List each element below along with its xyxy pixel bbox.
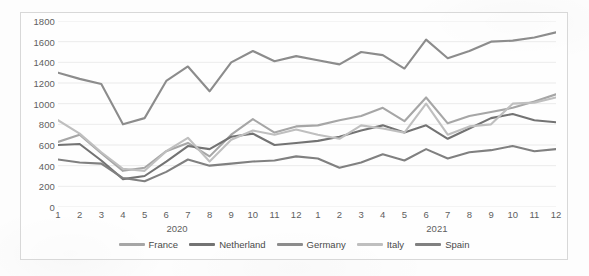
x-axis-tick-label: 8 xyxy=(207,209,212,220)
series-line-germany xyxy=(58,32,556,124)
y-axis-tick-label: 400 xyxy=(39,160,55,171)
page-background: 180016001400120010008006004002000 123456… xyxy=(0,0,589,276)
legend-swatch-spain xyxy=(415,243,441,246)
series-lines xyxy=(58,21,556,207)
legend-item-netherland[interactable]: Netherland xyxy=(189,239,265,250)
y-axis-tick-label: 800 xyxy=(39,119,55,130)
x-axis-tick-label: 6 xyxy=(164,209,169,220)
x-axis-tick-label: 9 xyxy=(488,209,493,220)
legend-item-italy[interactable]: Italy xyxy=(357,239,404,250)
legend-swatch-germany xyxy=(277,243,303,246)
chart-frame: 180016001400120010008006004002000 123456… xyxy=(20,12,568,260)
x-axis-group-label: 2021 xyxy=(426,223,447,234)
y-axis-tick-label: 1800 xyxy=(33,16,55,27)
legend-item-france[interactable]: France xyxy=(119,239,179,250)
x-axis-tick-label: 6 xyxy=(423,209,428,220)
x-axis-group-label: 2020 xyxy=(167,223,188,234)
x-axis-tick-label: 12 xyxy=(291,209,302,220)
legend-label-germany: Germany xyxy=(307,239,346,250)
x-axis-tick-label: 5 xyxy=(142,209,147,220)
y-axis-tick-label: 1600 xyxy=(33,36,55,47)
y-axis-tick-label: 1000 xyxy=(33,98,55,109)
legend-swatch-netherland xyxy=(189,243,215,246)
x-axis-tick-label: 10 xyxy=(248,209,259,220)
x-axis-tick-label: 10 xyxy=(507,209,518,220)
x-axis-tick-label: 5 xyxy=(402,209,407,220)
series-line-spain xyxy=(58,146,556,181)
legend-label-italy: Italy xyxy=(387,239,404,250)
x-axis-tick-label: 9 xyxy=(229,209,234,220)
x-axis-tick-label: 2 xyxy=(77,209,82,220)
x-axis-tick-label: 11 xyxy=(529,209,539,220)
x-axis-tick-label: 11 xyxy=(270,209,280,220)
x-axis-tick-label: 3 xyxy=(99,209,104,220)
x-axis: 12345678910111212345678910111220202021 xyxy=(58,209,556,227)
y-axis-tick-label: 0 xyxy=(50,202,55,213)
chart-legend: FranceNetherlandGermanyItalySpain xyxy=(21,239,567,250)
x-axis-tick-label: 8 xyxy=(467,209,472,220)
x-axis-tick-label: 7 xyxy=(445,209,450,220)
legend-item-spain[interactable]: Spain xyxy=(415,239,469,250)
legend-swatch-france xyxy=(119,243,145,246)
x-axis-tick-label: 3 xyxy=(358,209,363,220)
x-axis-tick-label: 7 xyxy=(185,209,190,220)
x-axis-tick-label: 4 xyxy=(120,209,125,220)
x-axis-tick-label: 2 xyxy=(337,209,342,220)
y-axis-tick-label: 200 xyxy=(39,181,55,192)
series-line-italy xyxy=(58,97,556,170)
x-axis-tick-label: 1 xyxy=(315,209,320,220)
y-axis-tick-label: 1200 xyxy=(33,78,55,89)
x-axis-tick-label: 1 xyxy=(55,209,60,220)
legend-label-netherland: Netherland xyxy=(219,239,265,250)
x-axis-tick-label: 4 xyxy=(380,209,385,220)
plot-area xyxy=(58,21,556,207)
y-axis: 180016001400120010008006004002000 xyxy=(21,21,55,207)
y-axis-tick-label: 1400 xyxy=(33,57,55,68)
legend-swatch-italy xyxy=(357,243,383,246)
legend-label-spain: Spain xyxy=(445,239,469,250)
legend-item-germany[interactable]: Germany xyxy=(277,239,346,250)
legend-label-france: France xyxy=(149,239,179,250)
x-axis-tick-label: 12 xyxy=(551,209,562,220)
y-axis-tick-label: 600 xyxy=(39,140,55,151)
